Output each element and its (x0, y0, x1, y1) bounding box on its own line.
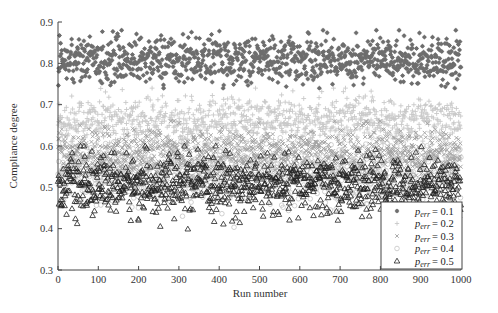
x-tick-label: 1000 (451, 274, 472, 285)
x-tick-label: 100 (90, 274, 106, 285)
series-0 (56, 28, 463, 91)
y-tick-label: 0.5 (40, 182, 53, 193)
x-tick-label: 700 (332, 274, 348, 285)
scatter-chart: 0.30.40.50.60.70.80.90100200300400500600… (0, 0, 498, 313)
y-tick-label: 0.9 (40, 17, 53, 28)
x-tick-label: 900 (413, 274, 429, 285)
y-axis-label: Compliance degree (7, 103, 19, 188)
y-tick-label: 0.3 (40, 265, 53, 276)
x-tick-label: 300 (171, 274, 187, 285)
legend: perr= 0.1perr= 0.2perr= 0.3perr= 0.4perr… (381, 202, 462, 269)
data-points (55, 28, 463, 231)
y-tick-label: 0.8 (40, 58, 53, 69)
x-tick-label: 800 (373, 274, 389, 285)
y-tick-label: 0.7 (40, 99, 53, 110)
x-axis-label: Run number (233, 287, 288, 299)
x-tick-label: 500 (252, 274, 268, 285)
x-tick-label: 600 (292, 274, 308, 285)
y-tick-label: 0.4 (40, 223, 54, 234)
y-tick-label: 0.6 (40, 141, 53, 152)
x-tick-label: 200 (131, 274, 147, 285)
x-tick-label: 0 (55, 274, 60, 285)
x-tick-label: 400 (211, 274, 227, 285)
